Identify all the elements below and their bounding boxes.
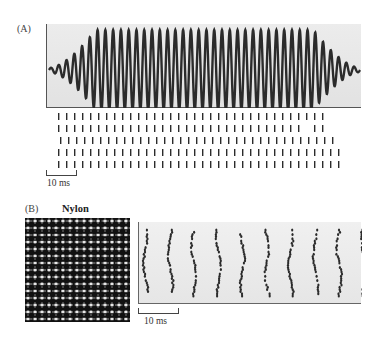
nylon-title: Nylon [62,203,89,214]
panel-b-label: (B) [25,203,38,214]
stimulus-waveform-panel [46,24,361,108]
scale-bar-a-label: 10 ms [47,178,70,188]
sinusoid-waveform [47,24,362,108]
spike-raster-b [138,222,361,304]
spike-raster-a [56,111,356,169]
scale-bar-b-label: 10 ms [144,316,167,326]
scale-bar-b [138,308,179,314]
panel-a-label: (A) [17,23,31,34]
nylon-texture-image [25,218,130,322]
scale-bar-a [46,170,77,176]
